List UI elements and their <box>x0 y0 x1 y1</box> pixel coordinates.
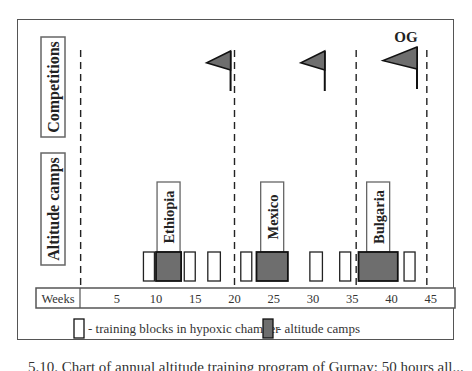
hypoxic-block-2 <box>184 252 195 281</box>
weeks-axis-label: Weeks <box>41 292 74 306</box>
competition-label-og: OG <box>394 29 418 45</box>
row-label-text: Altitude camps <box>45 157 63 261</box>
row-label-text: Competitions <box>45 41 63 133</box>
hypoxic-block-4 <box>241 252 252 281</box>
flag-icon <box>383 47 417 69</box>
x-tick-label-35: 35 <box>346 292 359 306</box>
hypoxic-block-6 <box>340 252 351 281</box>
training-timeline-diagram: CompetitionsAltitude campsWeeks510152025… <box>0 0 472 371</box>
legend: - training blocks in hypoxic chamber- al… <box>74 319 360 338</box>
x-tick-label-10: 10 <box>150 292 163 306</box>
altitude-camp-mexico: Mexico <box>256 182 287 281</box>
legend-swatch-hypoxic <box>74 319 84 338</box>
x-tick-label-25: 25 <box>268 292 281 306</box>
row-label-altitude: Altitude camps <box>41 153 65 265</box>
legend-item-altitude: - altitude camps <box>263 319 360 338</box>
legend-item-hypoxic: - training blocks in hypoxic chamber <box>74 319 280 338</box>
altitude-camp-block <box>359 252 398 281</box>
figure-caption: 5.10. Chart of annual altitude training … <box>28 352 468 371</box>
x-tick-label-45: 45 <box>425 292 438 306</box>
x-tick-label-40: 40 <box>385 292 398 306</box>
hypoxic-block-7 <box>404 252 415 281</box>
legend-swatch-altitude <box>263 319 273 338</box>
flag-icon <box>207 51 231 70</box>
hypoxic-block-1 <box>143 252 154 281</box>
camp-label-text: Mexico <box>265 194 281 239</box>
altitude-camp-bulgaria: Bulgaria <box>359 182 398 281</box>
legend-label-altitude: - altitude camps <box>277 321 360 336</box>
x-tick-label-30: 30 <box>307 292 320 306</box>
row-label-competitions: Competitions <box>41 37 65 137</box>
camp-label-text: Ethiopia <box>161 190 177 244</box>
x-tick-label-5: 5 <box>114 292 120 306</box>
altitude-camp-block <box>156 252 181 281</box>
flag-icon <box>301 51 325 70</box>
x-tick-label-15: 15 <box>189 292 202 306</box>
competition-flag-1 <box>207 51 231 91</box>
competition-flag-2 <box>301 51 325 91</box>
legend-label-hypoxic: - training blocks in hypoxic chamber <box>88 321 280 336</box>
x-tick-label-20: 20 <box>228 292 241 306</box>
altitude-camp-block <box>256 252 287 281</box>
camp-label-text: Bulgaria <box>371 189 387 244</box>
competition-flag-3: OG <box>383 29 418 89</box>
hypoxic-block-5 <box>310 252 323 281</box>
hypoxic-block-3 <box>208 252 221 281</box>
altitude-camp-ethiopia: Ethiopia <box>156 182 181 281</box>
